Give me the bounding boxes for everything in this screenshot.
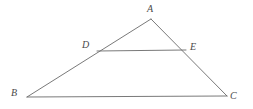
triangle-diagram-canvas	[0, 0, 253, 109]
vertex-label-c: C	[230, 91, 237, 101]
segment-side-ab	[27, 19, 151, 97]
segment-de	[97, 50, 186, 51]
geometry-figure: A B C D E	[0, 0, 253, 109]
vertex-label-e: E	[190, 42, 196, 52]
vertex-label-d: D	[82, 40, 89, 50]
vertex-label-b: B	[11, 88, 17, 98]
segment-side-ac	[151, 19, 227, 96]
segment-base-bc	[27, 96, 227, 97]
vertex-label-a: A	[147, 4, 153, 14]
